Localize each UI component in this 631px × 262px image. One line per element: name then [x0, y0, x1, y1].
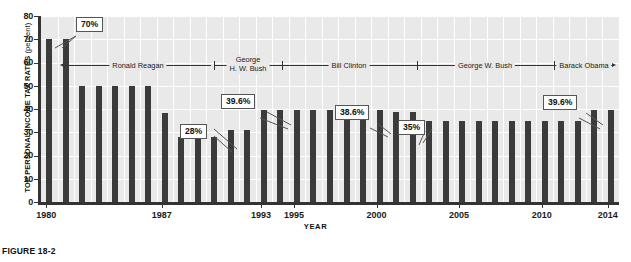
bar-1989	[195, 137, 201, 202]
bar-1993	[261, 110, 267, 202]
callout-38-6-percent: 38.6%	[335, 105, 369, 120]
bar-2010	[542, 121, 548, 202]
y-tick-label-20: 20	[23, 150, 33, 160]
callout-70-percent: 70%	[76, 17, 103, 32]
bar-1980	[46, 39, 52, 202]
bar-2006	[476, 121, 482, 202]
bar-2004	[443, 121, 449, 202]
x-tick-mark-2000	[377, 204, 378, 208]
x-tick-mark-1995	[294, 204, 295, 208]
bar-2009	[525, 121, 531, 202]
bar-2003	[426, 121, 432, 202]
x-tick-label-1980: 1980	[36, 210, 56, 220]
y-tick-label-40: 40	[23, 104, 33, 114]
callout-35-percent: 35%	[398, 120, 425, 135]
x-tick-mark-1987	[162, 204, 163, 208]
bar-2014	[608, 110, 614, 202]
bar-1983	[96, 86, 102, 202]
figure-container: TOP PERSONAL INCOME TAX RATES (percent) …	[0, 0, 631, 262]
bar-1985	[129, 86, 135, 202]
x-tick-label-2014: 2014	[598, 210, 618, 220]
bar-1984	[112, 86, 118, 202]
x-tick-label-2005: 2005	[449, 210, 469, 220]
y-axis: TOP PERSONAL INCOME TAX RATES (percent) …	[0, 0, 38, 206]
x-tick-mark-2010	[542, 204, 543, 208]
y-tick-label-0: 0	[28, 197, 33, 207]
bar-1991	[228, 130, 234, 202]
y-tick-label-80: 80	[23, 11, 33, 21]
bar-1995	[294, 110, 300, 202]
x-axis-title: YEAR	[0, 222, 631, 231]
bar-1992	[244, 130, 250, 202]
y-tick-label-50: 50	[23, 81, 33, 91]
bar-1996	[310, 110, 316, 202]
x-tick-label-2010: 2010	[532, 210, 552, 220]
callout-28-percent: 28%	[180, 124, 207, 139]
x-tick-mark-1980	[46, 204, 47, 208]
y-tick-label-30: 30	[23, 127, 33, 137]
figure-caption: FIGURE 18-2	[2, 246, 56, 256]
y-tick-label-70: 70	[23, 34, 33, 44]
bar-2011	[558, 121, 564, 202]
bar-2012	[575, 121, 581, 202]
x-tick-label-2000: 2000	[367, 210, 387, 220]
bar-2005	[459, 121, 465, 202]
bar-1999	[360, 110, 366, 202]
bar-2000	[377, 110, 383, 202]
x-tick-label-1987: 1987	[152, 210, 172, 220]
x-tick-mark-2014	[608, 204, 609, 208]
y-tick-label-60: 60	[23, 57, 33, 67]
bar-2008	[509, 121, 515, 202]
plot-area	[38, 16, 619, 205]
bar-1997	[327, 110, 333, 202]
x-tick-label-1993: 1993	[251, 210, 271, 220]
bar-1987	[162, 113, 168, 203]
bar-1981	[63, 39, 69, 202]
y-axis-title-main: TOP PERSONAL INCOME TAX RATES	[23, 56, 32, 193]
bar-2007	[492, 121, 498, 202]
bar-1998	[344, 110, 350, 202]
callout-39-6-percent-obama: 39.6%	[543, 95, 577, 110]
y-tick-label-10: 10	[23, 174, 33, 184]
x-tick-label-1995: 1995	[284, 210, 304, 220]
bar-1994	[277, 110, 283, 202]
callout-39-6-percent-clinton: 39.6%	[221, 94, 255, 109]
bar-series	[41, 16, 619, 202]
x-tick-mark-2005	[459, 204, 460, 208]
bar-1986	[145, 86, 151, 202]
x-tick-mark-1993	[261, 204, 262, 208]
bar-1982	[79, 86, 85, 202]
bar-1990	[211, 137, 217, 202]
bar-1988	[178, 137, 184, 202]
bar-2013	[591, 110, 597, 202]
